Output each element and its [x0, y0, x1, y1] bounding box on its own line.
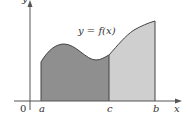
area-under-curve-diagram: y y = f(x) 0 a c b x [0, 0, 190, 113]
point-b-label: b [153, 104, 159, 113]
y-axis-label: y [22, 0, 28, 4]
y-axis-arrow-icon [28, 0, 33, 7]
function-label: y = f(x) [78, 26, 116, 36]
x-axis-label: x [174, 104, 180, 113]
point-c-label: c [107, 104, 113, 113]
point-a-label: a [39, 104, 45, 113]
origin-label: 0 [20, 104, 26, 113]
region-a-to-c [41, 44, 109, 101]
diagram-graphic [0, 0, 190, 113]
